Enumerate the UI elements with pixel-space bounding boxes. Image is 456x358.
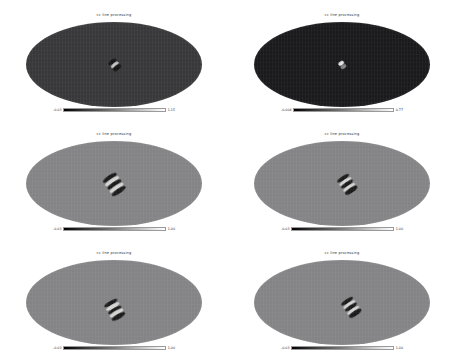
panel-top-right: cc line processing-0.0040.77 [228,0,456,119]
colorbar: -0.031.00 [53,224,175,233]
panel-title: cc line processing [228,251,456,256]
mollweide-map [254,141,430,226]
central-source-feature [102,297,126,322]
sky-map-surface [254,141,430,226]
colorbar-gradient [63,227,166,231]
panel-bottom-left: cc line processing-0.031.00 [0,238,228,357]
central-source-feature [336,172,359,196]
colorbar-gradient [291,227,394,231]
colorbar: -0.031.00 [281,224,403,233]
colorbar-gradient [63,346,166,350]
mollweide-map [26,141,202,226]
colorbar-min-label: -0.03 [281,346,290,350]
panel-middle-right: cc line processing-0.031.00 [228,119,456,238]
sky-map-surface [26,141,202,226]
central-source-feature [101,170,127,197]
colorbar-max-label: 0.77 [396,108,403,112]
panel-title: cc line processing [228,132,456,137]
colorbar-min-label: -0.03 [53,108,62,112]
panel-title: cc line processing [0,132,228,137]
colorbar: -0.031.00 [281,343,403,352]
colorbar-max-label: 1.15 [168,108,175,112]
panel-bottom-right: cc line processing-0.031.00 [228,238,456,357]
mollweide-map [254,260,430,345]
central-source-feature [339,295,362,319]
colorbar: -0.031.15 [53,105,175,114]
sky-map-surface [26,22,202,107]
mollweide-map [26,260,202,345]
figure-canvas: cc line processing-0.031.15cc line proce… [0,0,456,358]
panel-title: cc line processing [0,251,228,256]
colorbar-max-label: 1.00 [396,227,403,231]
panel-title: cc line processing [228,13,456,18]
colorbar-gradient [291,346,394,350]
colorbar: -0.031.00 [53,343,175,352]
colorbar-max-label: 1.00 [168,227,175,231]
colorbar-min-label: -0.03 [53,227,62,231]
colorbar-gradient [293,108,394,112]
colorbar-min-label: -0.004 [281,108,292,112]
central-source-feature [106,57,121,72]
mollweide-map [254,22,430,107]
colorbar-min-label: -0.03 [53,346,62,350]
panel-middle-left: cc line processing-0.031.00 [0,119,228,238]
colorbar-max-label: 1.00 [396,346,403,350]
sky-map-surface [254,260,430,345]
sky-map-surface [26,260,202,345]
panel-title: cc line processing [0,13,228,18]
sky-map-surface [254,22,430,107]
colorbar: -0.0040.77 [281,105,403,114]
central-source-feature [337,59,348,69]
mollweide-map [26,22,202,107]
panel-top-left: cc line processing-0.031.15 [0,0,228,119]
colorbar-min-label: -0.03 [281,227,290,231]
colorbar-max-label: 1.00 [168,346,175,350]
colorbar-gradient [63,108,166,112]
